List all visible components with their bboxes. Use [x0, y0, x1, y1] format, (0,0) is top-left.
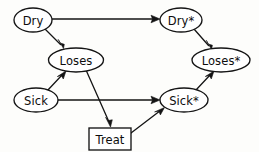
edge-line — [194, 29, 209, 46]
edge-loses-to-treat — [86, 70, 112, 127]
influence-diagram-graph: Dry Loses Sick Treat Dry* Loses* — [0, 0, 259, 152]
node-dry-next-label: Dry* — [168, 14, 195, 28]
node-dry-label: Dry — [23, 14, 44, 28]
edge-dry-to-loses — [45, 29, 64, 49]
node-loses-next[interactable]: Loses* — [192, 48, 250, 72]
node-dry[interactable]: Dry — [14, 8, 52, 32]
node-loses-next-label: Loses* — [202, 54, 241, 68]
edge-treat-to-sick-next — [131, 108, 165, 134]
node-loses[interactable]: Loses — [49, 48, 104, 72]
node-treat[interactable]: Treat — [89, 128, 131, 150]
edge-sick-to-sick-next — [58, 96, 160, 104]
node-treat-label: Treat — [95, 133, 125, 147]
edge-line — [196, 75, 211, 91]
edge-line — [131, 111, 161, 134]
arrow-head-icon — [151, 15, 160, 23]
edge-layer — [45, 15, 214, 133]
node-layer: Dry Loses Sick Treat Dry* Loses* — [14, 8, 250, 150]
arrow-head-icon — [151, 96, 160, 104]
node-dry-next[interactable]: Dry* — [160, 8, 202, 32]
arrow-head-icon — [106, 117, 113, 127]
node-loses-label: Loses — [60, 54, 93, 68]
node-sick-next[interactable]: Sick* — [160, 88, 208, 112]
node-sick-next-label: Sick* — [169, 94, 199, 108]
edge-sick-to-loses — [47, 71, 66, 91]
diagram-canvas: Dry Loses Sick Treat Dry* Loses* — [0, 0, 259, 152]
edge-line — [47, 75, 63, 92]
node-sick[interactable]: Sick — [14, 88, 58, 112]
edge-line — [45, 29, 61, 45]
edge-line — [86, 70, 109, 121]
edge-dry-next-to-loses-next — [194, 29, 212, 50]
edge-dry-to-dry-next — [52, 15, 160, 23]
edge-sick-next-to-loses-next — [196, 71, 214, 90]
node-sick-label: Sick — [24, 94, 48, 108]
